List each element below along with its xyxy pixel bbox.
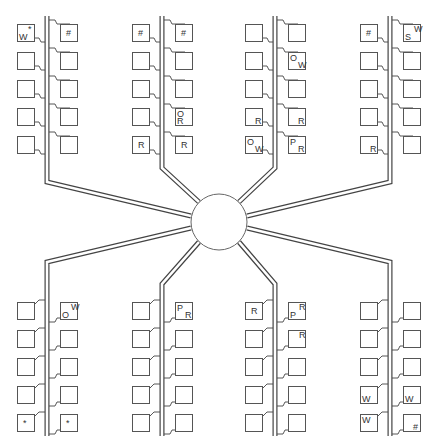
connector-bottom-3-left-4 bbox=[263, 384, 273, 388]
cell-label: # bbox=[366, 29, 371, 38]
central-hub bbox=[191, 194, 247, 250]
connector-top-4-left-5 bbox=[378, 150, 388, 154]
cell-bottom-4-left-5: W bbox=[360, 414, 378, 432]
connector-top-4-left-4 bbox=[378, 122, 388, 126]
connector-top-3-left-3 bbox=[263, 94, 273, 98]
connector-bottom-3-right-1 bbox=[277, 318, 288, 322]
cell-top-1-right-4 bbox=[60, 108, 78, 126]
connector-top-4-left-3 bbox=[378, 94, 388, 98]
cell-bottom-3-right-4 bbox=[288, 386, 306, 404]
connector-bottom-4-left-1 bbox=[378, 300, 388, 304]
cell-bottom-2-left-3 bbox=[132, 358, 150, 376]
network-diagram: W*##R#ORRROWOWRPR#RSW*OW*PRRPRRWWW# bbox=[0, 0, 438, 444]
cell-top-4-left-5: R bbox=[360, 136, 378, 154]
cell-bottom-3-left-2 bbox=[245, 330, 263, 348]
connector-top-3-left-5 bbox=[263, 150, 273, 154]
cell-bottom-4-left-3 bbox=[360, 358, 378, 376]
cell-label: O bbox=[62, 311, 69, 320]
connector-bottom-1-right-4 bbox=[49, 402, 60, 406]
cell-top-1-left-4 bbox=[17, 108, 35, 126]
cell-label: P bbox=[177, 304, 183, 313]
connector-bottom-2-right-5 bbox=[164, 430, 175, 434]
cell-bottom-1-right-5: * bbox=[60, 414, 78, 432]
connector-bottom-2-left-3 bbox=[150, 356, 160, 360]
cell-label: W bbox=[362, 395, 371, 404]
cell-label: R bbox=[255, 117, 262, 126]
cell-label: R bbox=[138, 141, 145, 150]
connector-bottom-2-left-4 bbox=[150, 384, 160, 388]
cell-label: * bbox=[23, 419, 27, 428]
cell-top-1-right-2 bbox=[60, 52, 78, 70]
cell-top-3-right-4: R bbox=[288, 108, 306, 126]
connector-bottom-3-right-4 bbox=[277, 402, 288, 406]
cell-label: W bbox=[255, 145, 264, 154]
connector-bottom-2-left-5 bbox=[150, 412, 160, 416]
cell-label: W bbox=[414, 25, 423, 34]
cell-top-2-left-2 bbox=[132, 52, 150, 70]
cell-top-4-right-2 bbox=[403, 52, 421, 70]
cell-label: R bbox=[298, 117, 305, 126]
connector-bottom-2-right-4 bbox=[164, 402, 175, 406]
cell-label: # bbox=[138, 29, 143, 38]
cell-bottom-2-left-2 bbox=[132, 330, 150, 348]
connector-bottom-4-left-4 bbox=[378, 384, 388, 388]
connector-bottom-4-right-3 bbox=[392, 374, 403, 378]
connector-top-2-left-1 bbox=[150, 38, 160, 42]
cell-label: W bbox=[71, 303, 80, 312]
cell-top-1-right-3 bbox=[60, 80, 78, 98]
cell-top-2-right-2 bbox=[175, 52, 193, 70]
cell-bottom-2-right-3 bbox=[175, 358, 193, 376]
cell-top-4-right-5 bbox=[403, 136, 421, 154]
cell-label: W bbox=[298, 61, 307, 70]
cell-top-4-right-1: SW bbox=[403, 24, 421, 42]
cell-label: S bbox=[405, 33, 411, 42]
cell-bottom-1-left-1 bbox=[17, 302, 35, 320]
cell-top-3-left-2 bbox=[245, 52, 263, 70]
connector-top-1-left-3 bbox=[35, 94, 45, 98]
connector-bottom-1-left-3 bbox=[35, 356, 45, 360]
cell-label: R bbox=[177, 117, 184, 126]
connector-bottom-4-left-2 bbox=[378, 328, 388, 332]
cell-bottom-2-left-5 bbox=[132, 414, 150, 432]
cell-top-4-left-2 bbox=[360, 52, 378, 70]
cell-label: P bbox=[290, 311, 296, 320]
cell-bottom-2-right-1: PR bbox=[175, 302, 193, 320]
connector-bottom-3-right-2 bbox=[277, 346, 288, 350]
connector-bottom-4-right-5 bbox=[392, 430, 403, 434]
connector-top-1-left-5 bbox=[35, 150, 45, 154]
cell-bottom-1-left-2 bbox=[17, 330, 35, 348]
cell-bottom-2-left-1 bbox=[132, 302, 150, 320]
connector-bottom-3-left-5 bbox=[263, 412, 273, 416]
cell-top-3-left-1 bbox=[245, 24, 263, 42]
cell-bottom-1-right-2 bbox=[60, 330, 78, 348]
cell-bottom-3-left-1: R bbox=[245, 302, 263, 320]
connector-top-2-left-3 bbox=[150, 94, 160, 98]
cell-top-1-right-1: # bbox=[60, 24, 78, 42]
cell-bottom-4-left-1 bbox=[360, 302, 378, 320]
connector-bottom-1-right-1 bbox=[49, 318, 60, 322]
cell-top-4-right-3 bbox=[403, 80, 421, 98]
cell-bottom-3-left-3 bbox=[245, 358, 263, 376]
cell-label: P bbox=[290, 138, 296, 147]
connector-bottom-4-left-3 bbox=[378, 356, 388, 360]
cell-top-2-right-4: OR bbox=[175, 108, 193, 126]
cell-top-4-left-1: # bbox=[360, 24, 378, 42]
connector-bottom-4-left-5 bbox=[378, 412, 388, 416]
cell-top-3-left-5: OW bbox=[245, 136, 263, 154]
connector-top-2-left-5 bbox=[150, 150, 160, 154]
cell-label: R bbox=[299, 331, 306, 340]
connector-top-4-left-1 bbox=[378, 38, 388, 42]
cell-top-1-left-1: W* bbox=[17, 24, 35, 42]
connector-top-3-left-1 bbox=[263, 38, 273, 42]
connector-top-1-left-2 bbox=[35, 66, 45, 70]
cell-top-2-left-5: R bbox=[132, 136, 150, 154]
cell-top-1-left-5 bbox=[17, 136, 35, 154]
cell-top-2-right-1: # bbox=[175, 24, 193, 42]
cell-top-3-right-2: OW bbox=[288, 52, 306, 70]
cell-top-4-left-4 bbox=[360, 108, 378, 126]
connector-bottom-3-left-2 bbox=[263, 328, 273, 332]
cell-top-2-left-4 bbox=[132, 108, 150, 126]
cell-label: R bbox=[298, 145, 305, 154]
cell-top-1-right-5 bbox=[60, 136, 78, 154]
cell-top-2-right-5: R bbox=[175, 136, 193, 154]
